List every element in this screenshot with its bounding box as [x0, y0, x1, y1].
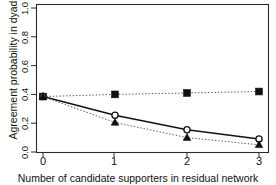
chart-canvas — [0, 0, 276, 185]
series-filled-square-series — [40, 88, 263, 100]
series-line-filled-triangle-series — [43, 97, 259, 145]
data-series-layer — [39, 88, 263, 147]
marker-square — [256, 88, 263, 95]
series-filled-triangle-series — [39, 93, 263, 148]
marker-circle-open — [112, 112, 118, 118]
marker-circle-open — [184, 127, 190, 133]
series-line-filled-square-series — [43, 92, 259, 97]
marker-triangle — [255, 141, 263, 148]
chart-figure: Agreement probability in dyad Number of … — [0, 0, 276, 185]
series-line-open-circle-series — [43, 97, 259, 139]
plot-frame — [37, 5, 269, 153]
series-open-circle-series — [40, 93, 262, 142]
marker-triangle — [183, 134, 191, 141]
marker-square — [184, 90, 191, 97]
marker-square — [112, 91, 119, 98]
